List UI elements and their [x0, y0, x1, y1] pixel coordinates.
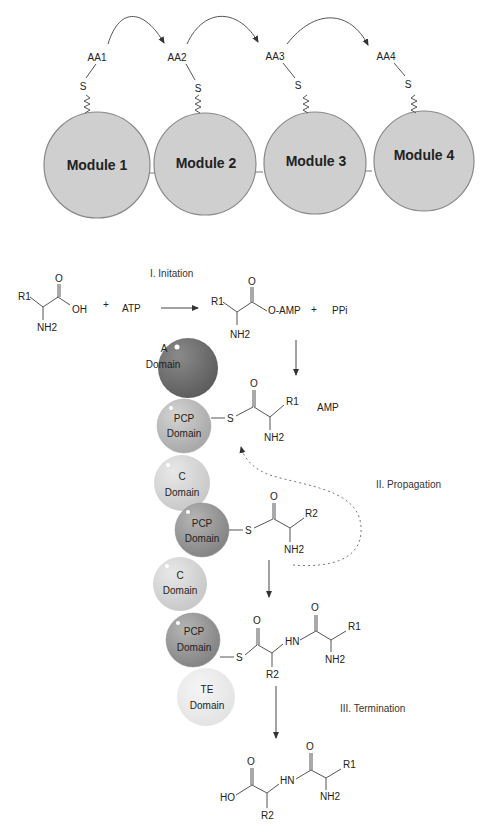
r1-label: R1: [211, 296, 224, 307]
a-domain-line2: Domain: [146, 359, 180, 370]
c-domain-1-line2: Domain: [165, 487, 199, 498]
aa2-label: AA2: [168, 52, 187, 63]
a-domain: A Domain: [146, 338, 218, 398]
aa3-label: AA3: [266, 51, 285, 62]
tether-3: S AA3: [266, 51, 309, 113]
termination: III. Termination HO O R2 HN O R1 NH2: [220, 686, 405, 821]
transfer-arrow-1: [108, 16, 164, 44]
thiol-label: S: [195, 83, 202, 94]
o-label: O: [248, 276, 256, 287]
module-2: Module 2: [154, 113, 256, 215]
module-chain: Module 1 Module 2 Module 3 Module 4 S AA…: [44, 16, 474, 218]
module-3: Module 3: [264, 112, 366, 214]
hn-label: HN: [280, 775, 294, 786]
s-label: S: [245, 525, 252, 536]
pcp-domain-1: PCP Domain: [157, 399, 211, 453]
a-domain-line1: A: [161, 343, 168, 354]
module-2-label: Module 2: [176, 155, 237, 171]
nrps-diagram: Module 1 Module 2 Module 3 Module 4 S AA…: [0, 0, 481, 831]
nh2-label: NH2: [284, 544, 304, 555]
r1-label: R1: [18, 291, 31, 302]
nh2-label: NH2: [230, 329, 250, 340]
nh2-label: NH2: [320, 791, 340, 802]
r2-label: R2: [266, 669, 279, 680]
pcp-domain-2-line1: PCP: [192, 518, 213, 529]
r2-label: R2: [305, 508, 318, 519]
domain-stack: A Domain PCP Domain C Domain PCP Domain …: [146, 338, 235, 726]
highlight-dot: [175, 345, 180, 350]
plus-sign: +: [311, 304, 317, 315]
ho-label: HO: [220, 792, 235, 803]
pcp-domain-3-line1: PCP: [184, 626, 205, 637]
thiol-label: S: [80, 81, 87, 92]
o-label: O: [253, 615, 261, 626]
termination-stage-label: III. Termination: [340, 703, 405, 714]
tether-4: S AA4: [377, 51, 417, 113]
te-domain-line1: TE: [201, 684, 214, 695]
te-domain: TE Domain: [177, 668, 235, 726]
propagation-stage-label: II. Propagation: [376, 479, 441, 490]
nh2-label: NH2: [37, 322, 57, 333]
nh2-label: NH2: [264, 432, 284, 443]
c-domain-1: C Domain: [154, 455, 210, 511]
tether-2: S AA2: [168, 52, 202, 113]
aminoacyl-thioester-1: S O R1 NH2: [211, 378, 299, 443]
o-label: O: [306, 741, 314, 752]
reactant-amino-acid: R1 O OH NH2: [18, 273, 87, 333]
initiation-stage-label: I. Initation: [150, 268, 193, 279]
module-4: Module 4: [374, 111, 474, 211]
ppi-label: PPi: [332, 305, 348, 316]
c-domain-2-line2: Domain: [163, 585, 197, 596]
te-domain-line2: Domain: [190, 700, 224, 711]
o-label: O: [270, 491, 278, 502]
propagation: S O R1 NH2 AMP II. Propagation S O R2: [211, 378, 441, 680]
c-domain-2: C Domain: [153, 557, 207, 611]
aa1-label: AA1: [88, 52, 107, 63]
pcp-domain-2: PCP Domain: [175, 503, 229, 557]
o-label: O: [311, 602, 319, 613]
s-label: S: [227, 413, 234, 424]
r2-label: R2: [261, 810, 274, 821]
tether-1: S AA1: [80, 52, 107, 113]
pcp-domain-3: PCP Domain: [166, 613, 220, 667]
pcp-domain-3-line2: Domain: [177, 642, 211, 653]
module-3-label: Module 3: [286, 153, 347, 169]
module-1: Module 1: [44, 112, 150, 218]
aminoacyl-amp: R1 O O-AMP NH2: [211, 276, 301, 340]
aminoacyl-thioester-2: S O R2 NH2: [229, 491, 318, 555]
oh-label: OH: [72, 304, 87, 315]
atp-label: ATP: [122, 303, 141, 314]
r1-label: R1: [348, 621, 361, 632]
o-label: O: [250, 378, 258, 389]
c-domain-2-line1: C: [176, 570, 183, 581]
plus-sign: +: [103, 299, 109, 310]
r1-label: R1: [286, 396, 299, 407]
c-domain-1-line1: C: [178, 471, 185, 482]
s-label: S: [236, 652, 243, 663]
thiol-label: S: [295, 80, 302, 91]
pcp-domain-1-line2: Domain: [167, 428, 201, 439]
o-label: O: [247, 756, 255, 767]
r1-label: R1: [343, 759, 356, 770]
nh2-label: NH2: [325, 654, 345, 665]
dipeptidyl-thioester: S O R2 HN O R1 NH2: [220, 602, 361, 680]
thiol-label: S: [405, 79, 412, 90]
transfer-arrow-2: [187, 16, 258, 44]
pcp-domain-2-line2: Domain: [185, 533, 219, 544]
module-1-label: Module 1: [67, 157, 128, 173]
hn-label: HN: [285, 636, 299, 647]
o-label: O: [55, 273, 63, 284]
module-4-label: Module 4: [394, 147, 455, 163]
o-amp-label: O-AMP: [268, 305, 301, 316]
amp-label: AMP: [317, 402, 339, 413]
pcp-domain-1-line1: PCP: [174, 413, 195, 424]
dipeptide-product: HO O R2 HN O R1 NH2: [220, 741, 356, 821]
aa4-label: AA4: [377, 51, 396, 62]
transfer-arrow-3: [287, 18, 368, 45]
